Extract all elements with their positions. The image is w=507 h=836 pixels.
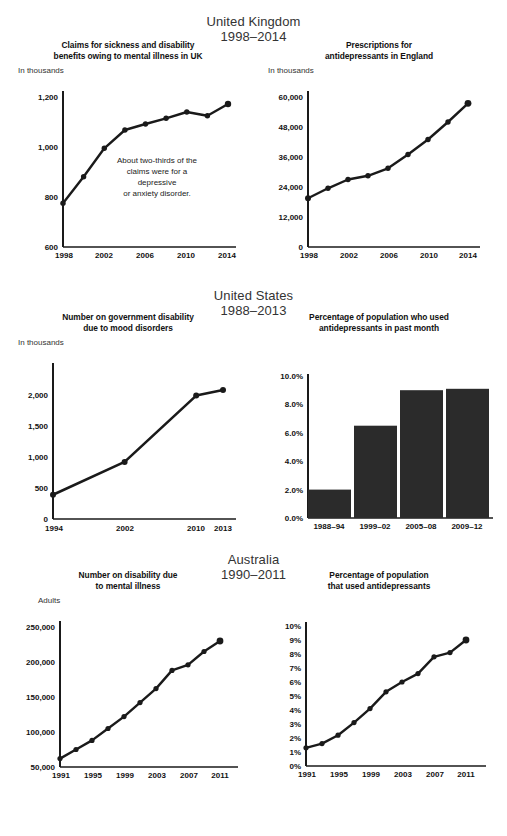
y-tick-label: 0 bbox=[8, 515, 48, 524]
chart-annotation-uk-claims: About two-thirds of the claims were for … bbox=[92, 155, 222, 199]
x-tick-label: 2006 bbox=[380, 251, 398, 260]
data-point bbox=[220, 387, 226, 393]
series-line-us-disability bbox=[53, 390, 223, 495]
data-point bbox=[169, 668, 174, 673]
data-point bbox=[385, 166, 390, 171]
y-tick-label: 8% bbox=[258, 650, 301, 659]
chart-title-uk-claims: Claims for sickness and disability benef… bbox=[8, 40, 248, 62]
y-tick-label: 50,000 bbox=[8, 763, 55, 772]
y-tick-label: 100,000 bbox=[8, 728, 55, 737]
x-tick-label: 1995 bbox=[84, 771, 102, 780]
y-tick-label: 60,000 bbox=[258, 93, 303, 102]
data-point bbox=[415, 671, 420, 676]
data-point bbox=[184, 109, 189, 114]
country-name-au: Australia bbox=[228, 552, 279, 567]
y-tick-label: 8.0% bbox=[258, 400, 303, 409]
data-point bbox=[153, 686, 158, 691]
x-tick-label: 2003 bbox=[148, 771, 166, 780]
chart-title-line-2: to mental illness bbox=[8, 581, 248, 592]
x-tick-label: 1995 bbox=[330, 770, 348, 779]
x-tick-label: 2007 bbox=[180, 771, 198, 780]
data-point bbox=[163, 116, 168, 121]
x-tick-label: 1988–94 bbox=[313, 522, 344, 531]
x-tick-label: 2003 bbox=[394, 770, 412, 779]
data-point bbox=[73, 747, 78, 752]
axis-unit-label-au-disability: Adults bbox=[38, 596, 248, 605]
data-point bbox=[351, 720, 356, 725]
data-point bbox=[325, 186, 330, 191]
chart-title-line-1: Number on disability due bbox=[8, 570, 248, 581]
annotation-line-4: or anxiety disorder. bbox=[92, 188, 222, 199]
y-tick-label: 48,000 bbox=[258, 123, 303, 132]
country-name-uk: United Kingdom bbox=[207, 14, 301, 29]
y-tick-label: 10.0% bbox=[258, 372, 303, 381]
x-tick-label: 1999–02 bbox=[359, 522, 390, 531]
y-tick-label: 250,000 bbox=[8, 623, 55, 632]
chart-title-uk-prescriptions: Prescriptions for antidepressants in Eng… bbox=[258, 40, 500, 62]
country-name-us: United States bbox=[214, 288, 293, 303]
data-point bbox=[185, 662, 190, 667]
x-tick-label: 2002 bbox=[116, 524, 134, 533]
chart-title-us-antidepressant-use: Percentage of population who used antide… bbox=[258, 312, 500, 334]
bar bbox=[446, 389, 489, 518]
data-point bbox=[447, 650, 452, 655]
x-tick-label: 1991 bbox=[52, 771, 70, 780]
data-point bbox=[303, 745, 308, 750]
plot-area-uk-prescriptions: 60,000 48,000 36,000 24,000 12,000 0 199… bbox=[258, 77, 500, 257]
bar bbox=[354, 426, 397, 518]
data-point bbox=[383, 689, 388, 694]
data-point bbox=[217, 638, 224, 645]
chart-title-line-1: Percentage of population who used bbox=[258, 312, 500, 323]
x-tick-label: 2009–12 bbox=[451, 522, 482, 531]
x-tick-label: 2002 bbox=[95, 251, 113, 260]
x-tick-label: 2014 bbox=[218, 251, 236, 260]
chart-uk-prescriptions: Prescriptions for antidepressants in Eng… bbox=[258, 40, 500, 257]
x-tick-label: 2010 bbox=[187, 524, 205, 533]
chart-title-line-1: Prescriptions for bbox=[258, 40, 500, 51]
data-point bbox=[122, 127, 127, 132]
y-tick-label: 500 bbox=[8, 484, 48, 493]
x-tick-label: 1998 bbox=[300, 251, 318, 260]
y-tick-label: 2,000 bbox=[8, 391, 48, 400]
y-tick-label: 2.0% bbox=[258, 486, 303, 495]
data-point bbox=[122, 459, 128, 465]
data-point bbox=[89, 738, 94, 743]
y-tick-label: 10% bbox=[258, 622, 301, 631]
annotation-line-2: claims were for a bbox=[92, 166, 222, 177]
x-tick-label: 1994 bbox=[45, 524, 63, 533]
y-tick-label: 1,500 bbox=[8, 422, 48, 431]
data-point bbox=[399, 679, 404, 684]
chart-title-line-2: antidepressants in England bbox=[258, 51, 500, 62]
chart-au-antidepressant-use: Percentage of population that used antid… bbox=[258, 570, 500, 786]
axis-unit-label-uk-claims: In thousands bbox=[18, 66, 248, 75]
x-tick-label: 2005–08 bbox=[405, 522, 436, 531]
data-point bbox=[319, 741, 324, 746]
chart-title-au-disability: Number on disability due to mental illne… bbox=[8, 570, 248, 592]
y-tick-label: 9% bbox=[258, 636, 301, 645]
x-tick-label: 2011 bbox=[211, 771, 228, 780]
chart-title-line-2: due to mood disorders bbox=[8, 323, 248, 334]
plot-area-us-disability: 2,000 1,500 1,000 500 0 1994 2002 2010 2… bbox=[8, 349, 248, 531]
data-point bbox=[102, 146, 107, 151]
chart-uk-claims: Claims for sickness and disability benef… bbox=[8, 40, 248, 257]
x-tick-label: 1998 bbox=[55, 251, 73, 260]
plot-svg-us-disability bbox=[8, 349, 248, 531]
y-tick-label: 0.0% bbox=[258, 514, 303, 523]
data-point bbox=[431, 654, 436, 659]
x-tick-label: 2006 bbox=[136, 251, 154, 260]
data-point bbox=[465, 100, 472, 107]
axis-unit-label-uk-prescriptions: In thousands bbox=[268, 66, 500, 75]
x-tick-label: 1999 bbox=[362, 770, 380, 779]
data-point bbox=[225, 101, 231, 107]
chart-title-line-2: that used antidepressants bbox=[258, 581, 500, 592]
y-tick-label: 5% bbox=[258, 692, 301, 701]
y-tick-label: 2% bbox=[258, 734, 301, 743]
y-tick-label: 7% bbox=[258, 664, 301, 673]
data-point bbox=[143, 121, 148, 126]
chart-title-line-1: Number on government disability bbox=[8, 312, 248, 323]
y-tick-label: 150,000 bbox=[8, 693, 55, 702]
x-tick-label: 2010 bbox=[177, 251, 195, 260]
chart-title-line-1: Claims for sickness and disability bbox=[8, 40, 248, 51]
series-markers-us-disability bbox=[50, 387, 226, 498]
data-point bbox=[425, 137, 430, 142]
